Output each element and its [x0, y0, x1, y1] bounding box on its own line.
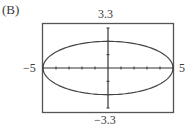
axes	[43, 28, 173, 108]
graph-window	[0, 0, 195, 128]
